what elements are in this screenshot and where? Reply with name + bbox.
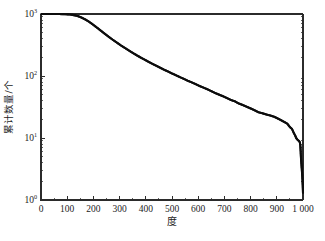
y-tick-label: 103 [24,7,37,19]
x-tick-label: 500 [165,204,180,214]
y-axis-ticks [41,14,45,200]
y-axis-title: 累计数量/个 [3,80,14,133]
x-tick-label: 700 [217,204,232,214]
axis-minor-ticks [41,17,303,200]
y-tick-label: 101 [24,131,37,143]
x-tick-label: 400 [139,204,154,214]
data-series-markers [40,13,304,193]
chart-plot-area: 01002003004005006007008009001 000 103102… [0,0,325,241]
x-tick-label: 600 [191,204,206,214]
y-tick-label: 102 [24,69,37,81]
x-tick-label: 1 000 [292,204,314,214]
y-tick-label: 100 [24,193,37,205]
x-tick-label: 300 [112,204,127,214]
x-tick-label: 200 [86,204,101,214]
chart-figure: 01002003004005006007008009001 000 103102… [0,0,325,241]
x-tick-label: 100 [60,204,75,214]
x-axis-tick-labels: 01002003004005006007008009001 000 [39,204,314,214]
data-point [302,191,304,193]
x-tick-label: 800 [243,204,258,214]
axis-frame [41,14,303,200]
x-tick-label: 900 [270,204,285,214]
data-series-line [42,14,303,193]
y-axis-tick-labels: 103102101100 [24,7,37,205]
x-axis-title: 度 [167,215,177,227]
x-tick-label: 0 [39,204,44,214]
